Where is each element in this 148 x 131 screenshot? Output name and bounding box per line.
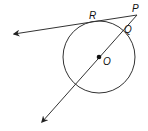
secant-ray-po <box>42 15 137 122</box>
center-point-o <box>97 55 102 60</box>
label-p: P <box>132 3 139 14</box>
label-o: O <box>103 56 111 67</box>
label-r: R <box>89 10 96 21</box>
label-q: Q <box>124 24 132 35</box>
tangent-ray-pr <box>14 15 137 34</box>
geometry-diagram: R P Q O <box>0 0 148 131</box>
